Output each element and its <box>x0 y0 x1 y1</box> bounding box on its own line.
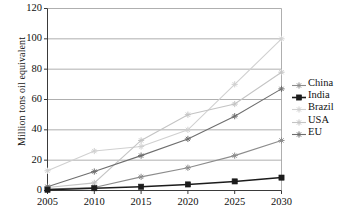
x-tick-label: 2020 <box>168 196 208 207</box>
legend-marker-eu-icon <box>291 126 307 137</box>
data-point-marker <box>296 107 302 113</box>
legend-item-eu[interactable]: EU <box>291 126 347 138</box>
legend-marker-usa-icon <box>291 114 307 125</box>
x-tick-label: 2030 <box>262 196 302 207</box>
legend-item-usa[interactable]: USA <box>291 113 347 125</box>
legend-marker-brazil-icon <box>291 101 307 112</box>
x-tick-label: 2005 <box>28 196 68 207</box>
data-point-marker <box>296 95 301 100</box>
legend-item-india[interactable]: India <box>291 88 347 100</box>
legend-label: USA <box>307 114 329 125</box>
x-tick-label: 2015 <box>121 196 161 207</box>
data-point-marker <box>296 82 302 88</box>
legend-item-china[interactable]: China <box>291 76 347 88</box>
legend-marker-china-icon <box>291 77 307 88</box>
data-point-marker <box>296 132 302 138</box>
legend-label: EU <box>307 126 322 137</box>
legend-item-brazil[interactable]: Brazil <box>291 101 347 113</box>
data-point-marker <box>296 119 302 125</box>
legend-marker-india-icon <box>291 89 307 100</box>
line-chart: Million tons oil equivalent 020406080100… <box>0 0 347 217</box>
legend-label: China <box>307 77 333 88</box>
legend-label: India <box>307 89 330 100</box>
x-tick-label: 2025 <box>215 196 255 207</box>
legend-label: Brazil <box>307 101 334 112</box>
chart-legend: ChinaIndiaBrazilUSAEU <box>291 76 347 138</box>
x-tick-label: 2010 <box>74 196 114 207</box>
